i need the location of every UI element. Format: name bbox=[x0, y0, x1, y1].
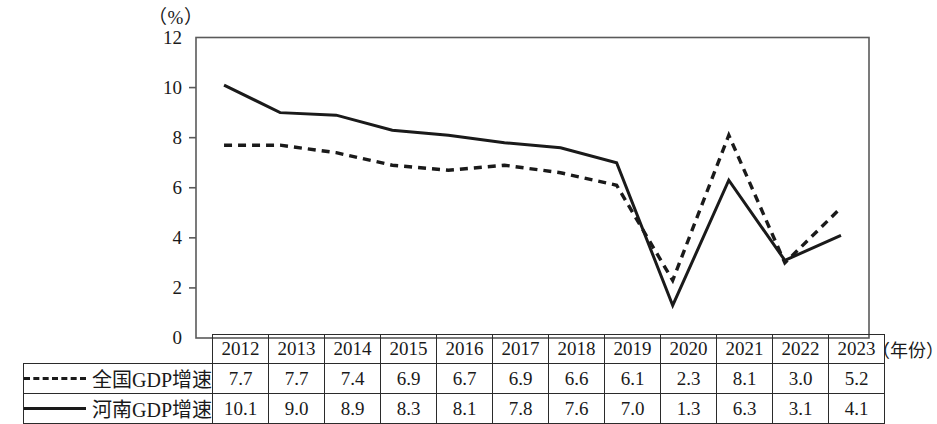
value-cell: 7.7 bbox=[213, 364, 269, 394]
value-cell: 6.9 bbox=[493, 364, 549, 394]
value-cell: 4.1 bbox=[829, 394, 885, 424]
value-cell: 8.9 bbox=[325, 394, 381, 424]
value-cell: 9.0 bbox=[269, 394, 325, 424]
year-header-2023: 2023 bbox=[829, 335, 885, 364]
legend-header-blank bbox=[24, 335, 213, 364]
value-cell: 6.9 bbox=[381, 364, 437, 394]
table-body: 全国GDP增速7.77.77.46.96.76.96.66.12.38.13.0… bbox=[24, 364, 885, 424]
value-cell: 6.6 bbox=[549, 364, 605, 394]
legend-line-swatch-dashed bbox=[24, 377, 86, 380]
year-header-2019: 2019 bbox=[605, 335, 661, 364]
value-cell: 6.3 bbox=[717, 394, 773, 424]
value-cell: 7.0 bbox=[605, 394, 661, 424]
value-cell: 6.1 bbox=[605, 364, 661, 394]
series-line-2 bbox=[224, 85, 841, 305]
y-tick-6: 6 bbox=[142, 177, 182, 199]
year-header-2022: 2022 bbox=[773, 335, 829, 364]
legend-line-swatch-solid bbox=[24, 407, 86, 410]
table-row: 河南GDP增速10.19.08.98.38.17.87.67.01.36.33.… bbox=[24, 394, 885, 424]
value-cell: 7.7 bbox=[269, 364, 325, 394]
y-tick-2: 2 bbox=[142, 277, 182, 299]
value-cell: 7.4 bbox=[325, 364, 381, 394]
legend-label-2: 河南GDP增速 bbox=[92, 394, 212, 423]
year-header-2021: 2021 bbox=[717, 335, 773, 364]
y-tick-12: 12 bbox=[142, 27, 182, 49]
year-header-2012: 2012 bbox=[213, 335, 269, 364]
axes bbox=[196, 38, 869, 339]
value-cell: 8.1 bbox=[717, 364, 773, 394]
value-cell: 3.1 bbox=[773, 394, 829, 424]
value-cell: 10.1 bbox=[213, 394, 269, 424]
plot-area: 024681012 bbox=[0, 0, 937, 360]
year-header-2015: 2015 bbox=[381, 335, 437, 364]
value-cell: 5.2 bbox=[829, 364, 885, 394]
y-tick-10: 10 bbox=[142, 77, 182, 99]
value-cell: 3.0 bbox=[773, 364, 829, 394]
year-header-2018: 2018 bbox=[549, 335, 605, 364]
value-cell: 8.3 bbox=[381, 394, 437, 424]
data-table: 2012201320142015201620172018201920202021… bbox=[23, 334, 885, 424]
value-cell: 7.8 bbox=[493, 394, 549, 424]
data-series bbox=[224, 85, 841, 305]
legend-cell-1: 全国GDP增速 bbox=[24, 364, 213, 394]
year-header-2013: 2013 bbox=[269, 335, 325, 364]
plot-svg bbox=[0, 0, 937, 360]
y-axis-ticks bbox=[189, 88, 196, 288]
year-header-2017: 2017 bbox=[493, 335, 549, 364]
value-cell: 7.6 bbox=[549, 394, 605, 424]
value-cell: 8.1 bbox=[437, 394, 493, 424]
year-header-2014: 2014 bbox=[325, 335, 381, 364]
value-cell: 2.3 bbox=[661, 364, 717, 394]
year-header-2016: 2016 bbox=[437, 335, 493, 364]
table-row: 全国GDP增速7.77.77.46.96.76.96.66.12.38.13.0… bbox=[24, 364, 885, 394]
legend-cell-2: 河南GDP增速 bbox=[24, 394, 213, 424]
table-header-row: 2012201320142015201620172018201920202021… bbox=[24, 335, 885, 364]
value-cell: 1.3 bbox=[661, 394, 717, 424]
value-cell: 6.7 bbox=[437, 364, 493, 394]
year-header-2020: 2020 bbox=[661, 335, 717, 364]
chart-figure: （%） 024681012 （年份） 201220132014201520162… bbox=[0, 0, 937, 424]
legend-label-1: 全国GDP增速 bbox=[92, 364, 212, 393]
y-tick-4: 4 bbox=[142, 227, 182, 249]
y-tick-8: 8 bbox=[142, 127, 182, 149]
